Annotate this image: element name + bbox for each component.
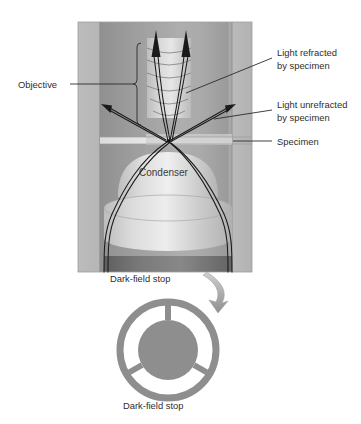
lower-lens-bottom: [104, 225, 232, 251]
diagram-canvas: Objective Light refracted by specimen Li…: [0, 0, 361, 424]
stop-central-disc: [138, 320, 198, 380]
label-darkfield-stop-caption: Dark-field stop: [123, 400, 183, 411]
darkfield-stop-diagram: [120, 302, 216, 398]
label-light-unrefracted-line1: Light unrefracted: [277, 99, 347, 110]
label-condenser: Condenser: [139, 167, 189, 178]
darkfield-microscopy-figure: Objective Light refracted by specimen Li…: [0, 0, 361, 424]
label-light-unrefracted-line2: by specimen: [277, 112, 330, 123]
label-specimen: Specimen: [277, 136, 319, 147]
specimen-focal-point: [167, 139, 171, 143]
darkfield-stop-bar: [104, 256, 232, 272]
label-darkfield-stop-upper: Dark-field stop: [110, 273, 170, 284]
stop-spoke-lower-right: [194, 365, 210, 374]
label-objective: Objective: [18, 79, 57, 90]
stop-spoke-lower-left: [126, 365, 142, 374]
label-light-refracted-line1: Light refracted: [277, 47, 337, 58]
curved-arrow-icon: [203, 272, 228, 313]
label-light-refracted-line2: by specimen: [277, 60, 330, 71]
